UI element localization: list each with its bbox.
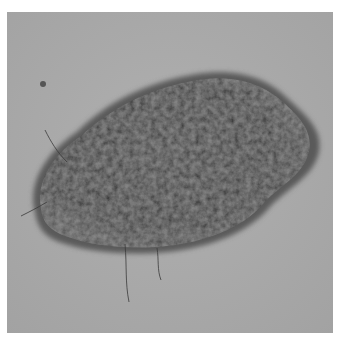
lesion-image	[7, 12, 333, 333]
lesion-photo	[7, 12, 333, 333]
small-spot	[40, 81, 46, 87]
